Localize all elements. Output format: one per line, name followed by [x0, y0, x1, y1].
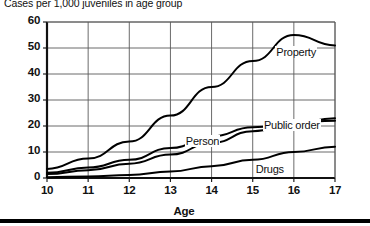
x-tick-label: 17 [323, 184, 347, 196]
series-label-drugs: Drugs [255, 163, 285, 175]
x-tick-label: 11 [76, 184, 100, 196]
y-tick-label: 50 [14, 40, 40, 52]
x-tick-label: 16 [282, 184, 306, 196]
y-tick-label: 40 [14, 66, 40, 78]
series-label-property: Property [275, 46, 317, 58]
series-label-public-order: Public order [263, 119, 321, 131]
series-line [47, 147, 335, 177]
y-tick-label: 10 [14, 144, 40, 156]
x-tick-label: 13 [158, 184, 182, 196]
x-axis-title: Age [154, 205, 214, 217]
bottom-divider [0, 219, 370, 223]
chart-figure: Cases per 1,000 juveniles in age group A… [0, 0, 370, 226]
y-tick-label: 60 [14, 14, 40, 26]
y-tick-label: 0 [14, 170, 40, 182]
x-tick-label: 12 [117, 184, 141, 196]
y-tick-label: 20 [14, 118, 40, 130]
x-tick-label: 15 [241, 184, 265, 196]
series-label-person: Person [185, 135, 220, 147]
x-tick-label: 14 [200, 184, 224, 196]
x-tick-label: 10 [35, 184, 59, 196]
y-tick-label: 30 [14, 92, 40, 104]
